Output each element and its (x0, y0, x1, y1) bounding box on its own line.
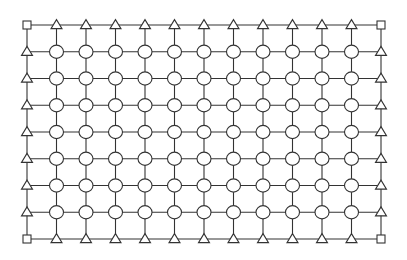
circle-node-icon (227, 152, 241, 165)
square-node-icon (377, 235, 385, 243)
circle-node-icon (168, 99, 182, 112)
circle-node-icon (138, 125, 152, 138)
triangle-node-icon (376, 100, 387, 109)
circle-node-icon (168, 152, 182, 165)
triangle-node-icon (376, 207, 387, 216)
grid-nodes (22, 20, 387, 243)
circle-node-icon (315, 45, 329, 58)
circle-node-icon (286, 152, 300, 165)
circle-node-icon (50, 125, 64, 138)
circle-node-icon (138, 179, 152, 192)
circle-node-icon (50, 99, 64, 112)
triangle-node-icon (346, 234, 357, 243)
circle-node-icon (227, 125, 241, 138)
circle-node-icon (256, 206, 270, 219)
circle-node-icon (227, 45, 241, 58)
circle-node-icon (256, 45, 270, 58)
circle-node-icon (79, 125, 93, 138)
triangle-node-icon (346, 20, 357, 29)
circle-node-icon (256, 179, 270, 192)
circle-node-icon (286, 45, 300, 58)
circle-node-icon (50, 206, 64, 219)
circle-node-icon (50, 45, 64, 58)
triangle-node-icon (376, 127, 387, 136)
triangle-node-icon (140, 234, 151, 243)
triangle-node-icon (169, 234, 180, 243)
circle-node-icon (345, 72, 359, 85)
circle-node-icon (138, 99, 152, 112)
circle-node-icon (315, 72, 329, 85)
circle-node-icon (79, 72, 93, 85)
circle-node-icon (197, 99, 211, 112)
triangle-node-icon (110, 20, 121, 29)
circle-node-icon (109, 99, 123, 112)
triangle-node-icon (258, 20, 269, 29)
circle-node-icon (256, 125, 270, 138)
circle-node-icon (256, 99, 270, 112)
circle-node-icon (168, 206, 182, 219)
circle-node-icon (109, 72, 123, 85)
triangle-node-icon (376, 46, 387, 55)
triangle-node-icon (258, 234, 269, 243)
circle-node-icon (197, 125, 211, 138)
triangle-node-icon (228, 20, 239, 29)
circle-node-icon (79, 45, 93, 58)
triangle-node-icon (81, 20, 92, 29)
circle-node-icon (79, 152, 93, 165)
circle-node-icon (79, 99, 93, 112)
circle-node-icon (227, 179, 241, 192)
circle-node-icon (79, 206, 93, 219)
circle-node-icon (227, 206, 241, 219)
circle-node-icon (315, 125, 329, 138)
circle-node-icon (256, 152, 270, 165)
triangle-node-icon (22, 73, 33, 82)
circle-node-icon (138, 206, 152, 219)
circle-node-icon (286, 206, 300, 219)
circle-node-icon (50, 72, 64, 85)
circle-node-icon (168, 72, 182, 85)
circle-node-icon (197, 179, 211, 192)
circle-node-icon (109, 152, 123, 165)
circle-node-icon (138, 45, 152, 58)
circle-node-icon (345, 206, 359, 219)
circle-node-icon (79, 179, 93, 192)
triangle-node-icon (22, 207, 33, 216)
circle-node-icon (286, 72, 300, 85)
circle-node-icon (50, 152, 64, 165)
triangle-node-icon (287, 234, 298, 243)
circle-node-icon (168, 179, 182, 192)
triangle-node-icon (51, 234, 62, 243)
circle-node-icon (345, 45, 359, 58)
square-node-icon (23, 21, 31, 29)
triangle-node-icon (376, 73, 387, 82)
circle-node-icon (138, 152, 152, 165)
circle-node-icon (197, 72, 211, 85)
triangle-node-icon (169, 20, 180, 29)
circle-node-icon (227, 72, 241, 85)
circle-node-icon (345, 152, 359, 165)
circle-node-icon (138, 72, 152, 85)
circle-node-icon (286, 179, 300, 192)
circle-node-icon (197, 45, 211, 58)
circle-node-icon (109, 206, 123, 219)
triangle-node-icon (81, 234, 92, 243)
circle-node-icon (315, 99, 329, 112)
circle-node-icon (109, 45, 123, 58)
circle-node-icon (315, 152, 329, 165)
triangle-node-icon (199, 234, 210, 243)
triangle-node-icon (140, 20, 151, 29)
circle-node-icon (168, 125, 182, 138)
circle-node-icon (345, 179, 359, 192)
square-node-icon (377, 21, 385, 29)
circle-node-icon (256, 72, 270, 85)
triangle-node-icon (317, 20, 328, 29)
circle-node-icon (197, 152, 211, 165)
triangle-node-icon (376, 153, 387, 162)
circle-node-icon (50, 179, 64, 192)
circle-node-icon (227, 99, 241, 112)
triangle-node-icon (22, 100, 33, 109)
triangle-node-icon (22, 180, 33, 189)
triangle-node-icon (22, 46, 33, 55)
circle-node-icon (197, 206, 211, 219)
triangle-node-icon (110, 234, 121, 243)
